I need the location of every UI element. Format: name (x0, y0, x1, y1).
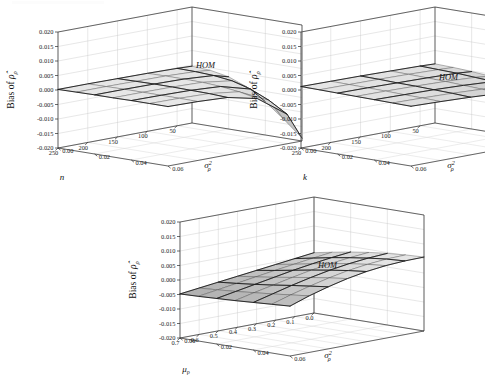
panel-c-ytick-1: 0.015 (161, 233, 175, 240)
panel-b-yaxis-title: Bias of ρ̂ρ (248, 70, 261, 108)
panel-c-ytick-7: -0.015 (159, 320, 176, 327)
panel-c-ytick-0: 0.020 (161, 218, 175, 225)
panel-b-xtick-1: 200 (321, 144, 331, 151)
panel-a-ytick-1: 0.015 (39, 43, 53, 50)
panel-a-zaxis-title: σ2ρ (204, 159, 212, 173)
panel-b-xtick-2: 150 (351, 138, 361, 145)
panel-c-xtick-0: 0.7 (172, 339, 181, 346)
panel-b-ytick-6: -0.010 (280, 115, 297, 122)
figure-three-surface-plots: 0.0200.0150.0100.0050.000-0.005-0.010-0.… (0, 0, 485, 387)
panel-a-ztick-2: 0.04 (136, 159, 148, 166)
panel-c-zaxis-title: σ2ρ (324, 349, 332, 363)
panel-c-ytick-4: 0.000 (161, 276, 175, 283)
panel-b-ytick-1: 0.015 (282, 43, 296, 50)
panel-a-xtick-3: 100 (138, 132, 148, 139)
panel-b-plot-area: 0.0200.0150.0100.0050.000-0.005-0.010-0.… (248, 7, 485, 182)
panel-b-ztick-2: 0.04 (379, 159, 391, 166)
panel-c-ztick-3: 0.06 (294, 355, 305, 362)
panel-c-ytick-5: -0.005 (159, 291, 176, 298)
panel-a-ytick-0: 0.020 (39, 28, 53, 35)
panel-b-annotation: HOM (438, 73, 459, 82)
panel-c-ytick-6: -0.010 (159, 305, 176, 312)
panel-c-svg: 0.0200.0150.0100.0050.000-0.005-0.010-0.… (120, 196, 365, 386)
panel-a-bias-vs-n: 0.0200.0150.0100.0050.000-0.005-0.010-0.… (0, 4, 243, 196)
panel-a-yaxis-title: Bias of ρ̂ρ (5, 70, 18, 108)
panel-b-ztick-3: 0.06 (415, 165, 426, 172)
panel-c-ytick-3: 0.005 (161, 262, 175, 269)
panel-a-svg: 0.0200.0150.0100.0050.000-0.005-0.010-0.… (0, 4, 243, 196)
panel-c-ztick-1: 0.02 (221, 343, 232, 350)
panel-c-xtick-7: 0.0 (306, 314, 314, 321)
panel-a-xtick-2: 150 (108, 138, 118, 145)
panel-b-ytick-0: 0.020 (282, 28, 296, 35)
panel-a-ztick-3: 0.06 (172, 165, 183, 172)
panel-a-ytick-4: 0.000 (39, 86, 53, 93)
panel-a-ytick-2: 0.010 (39, 57, 53, 64)
panel-b-ztick-1: 0.02 (342, 153, 353, 160)
panel-a-xaxis-title: n (60, 172, 65, 182)
panel-b-zaxis-title: σ2ρ (447, 159, 455, 173)
panel-c-xtick-6: 0.1 (286, 318, 294, 325)
panel-c-ytick-2: 0.010 (161, 247, 175, 254)
panel-c-xtick-5: 0.2 (267, 321, 275, 328)
panel-b-xtick-0: 250 (292, 149, 302, 156)
panel-a-ytick-3: 0.005 (39, 72, 53, 79)
panel-b-xtick-4: 50 (412, 127, 418, 134)
panel-b-ytick-3: 0.005 (282, 72, 296, 79)
panel-a-ztick-0: 0.00 (62, 147, 73, 154)
panel-b-xaxis-title: k (303, 172, 308, 182)
panel-b-ztick-0: 0.00 (305, 147, 316, 154)
panel-b-bias-vs-k: 0.0200.0150.0100.0050.000-0.005-0.010-0.… (243, 4, 485, 196)
panel-c-ztick-0: 0.00 (184, 337, 195, 344)
panel-a-ytick-7: -0.015 (37, 130, 54, 137)
panel-a-ytick-6: -0.010 (37, 115, 54, 122)
panel-c-bias-vs-mu: 0.0200.0150.0100.0050.000-0.005-0.010-0.… (120, 196, 365, 386)
panel-b-ytick-4: 0.000 (282, 86, 296, 93)
panel-c-annotation: HOM (317, 261, 338, 270)
panel-c-plot-area: 0.0200.0150.0100.0050.000-0.005-0.010-0.… (127, 197, 424, 375)
panel-c-xtick-3: 0.4 (229, 328, 238, 335)
panel-a-ytick-5: -0.005 (37, 101, 54, 108)
panel-b-svg: 0.0200.0150.0100.0050.000-0.005-0.010-0.… (243, 4, 485, 196)
panel-c-xaxis-title: μρ (181, 364, 190, 375)
panel-c-yaxis-title: Bias of ρ̂ρ (127, 260, 140, 298)
panel-c-xtick-4: 0.3 (248, 325, 256, 332)
panel-b-ytick-7: -0.015 (280, 130, 297, 137)
panel-a-ztick-1: 0.02 (99, 153, 110, 160)
panel-b-xtick-3: 100 (381, 132, 391, 139)
panel-a-xtick-1: 200 (78, 144, 88, 151)
panel-b-ytick-2: 0.010 (282, 57, 296, 64)
panel-a-xtick-4: 50 (169, 127, 175, 134)
panel-c-xtick-2: 0.5 (210, 332, 218, 339)
panel-b-ytick-5: -0.005 (280, 101, 297, 108)
panel-c-ztick-2: 0.04 (258, 349, 270, 356)
panel-a-xtick-0: 250 (49, 149, 59, 156)
panel-a-annotation: HOM (195, 61, 216, 70)
